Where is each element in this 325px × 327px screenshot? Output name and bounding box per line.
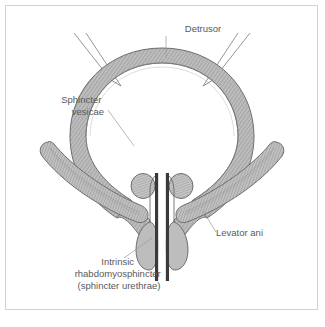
figure-root: Detrusor Sphincter vesicae Levator ani I… — [0, 0, 325, 327]
label-levator-ani: Levator ani — [216, 227, 263, 238]
label-detrusor: Detrusor — [185, 23, 221, 34]
urethra-wall-right — [166, 173, 169, 281]
urethra-lumen — [158, 173, 165, 281]
leader-sphincter-vesicae — [108, 110, 134, 146]
anatomy-diagram: Detrusor Sphincter vesicae Levator ani I… — [0, 0, 325, 327]
label-sphincter-vesicae: Sphincter vesicae — [61, 94, 104, 117]
sphincter-vesicae-right — [169, 174, 193, 199]
urethra-wall-left — [155, 173, 158, 281]
sphincter-vesicae-left — [131, 174, 155, 199]
